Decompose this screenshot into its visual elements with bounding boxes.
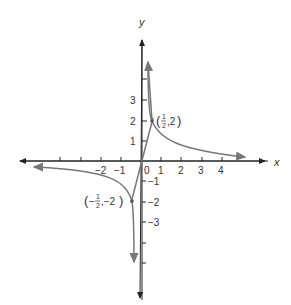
svg-text:0: 0 [144,165,150,176]
svg-text:(: ( [156,113,161,128]
svg-text:1: 1 [162,113,166,120]
svg-text:−1: −1 [114,165,126,176]
point-half-2 [150,119,154,123]
svg-text:2: 2 [130,116,136,127]
svg-text:): ) [119,193,123,208]
annotation-neg-half-neg-2: ( − 1 2 ,−2 ) [84,193,123,209]
svg-text:3: 3 [198,165,204,176]
svg-text:4: 4 [218,165,224,176]
svg-text:,−2: ,−2 [101,196,116,207]
svg-text:1: 1 [96,193,100,200]
svg-text:−3: −3 [148,217,160,228]
x-axis-label: x [273,156,280,168]
svg-text:): ) [177,113,181,128]
x-tick-labels: −2 −1 0 1 2 3 4 [95,165,224,176]
point-neg-half-neg-2 [130,199,134,203]
y-axis-label: y [138,16,146,28]
svg-text:−: − [89,196,95,207]
svg-text:−2: −2 [148,197,160,208]
hyperbola-left-branch [36,167,134,262]
svg-text:1: 1 [130,136,136,147]
svg-text:2: 2 [96,202,100,209]
svg-text:2: 2 [162,122,166,129]
hyperbola-right-branch [148,62,245,157]
svg-text:,2: ,2 [167,116,176,127]
annotation-half-2: ( 1 2 ,2 ) [156,113,181,129]
svg-text:2: 2 [178,165,184,176]
svg-text:−1: −1 [148,176,160,187]
svg-text:1: 1 [158,165,164,176]
svg-text:3: 3 [130,95,136,106]
chart: y x −2 −1 0 1 2 3 4 3 2 1 −1 −2 −3 ( 1 2… [0,0,291,305]
svg-text:−2: −2 [95,165,107,176]
